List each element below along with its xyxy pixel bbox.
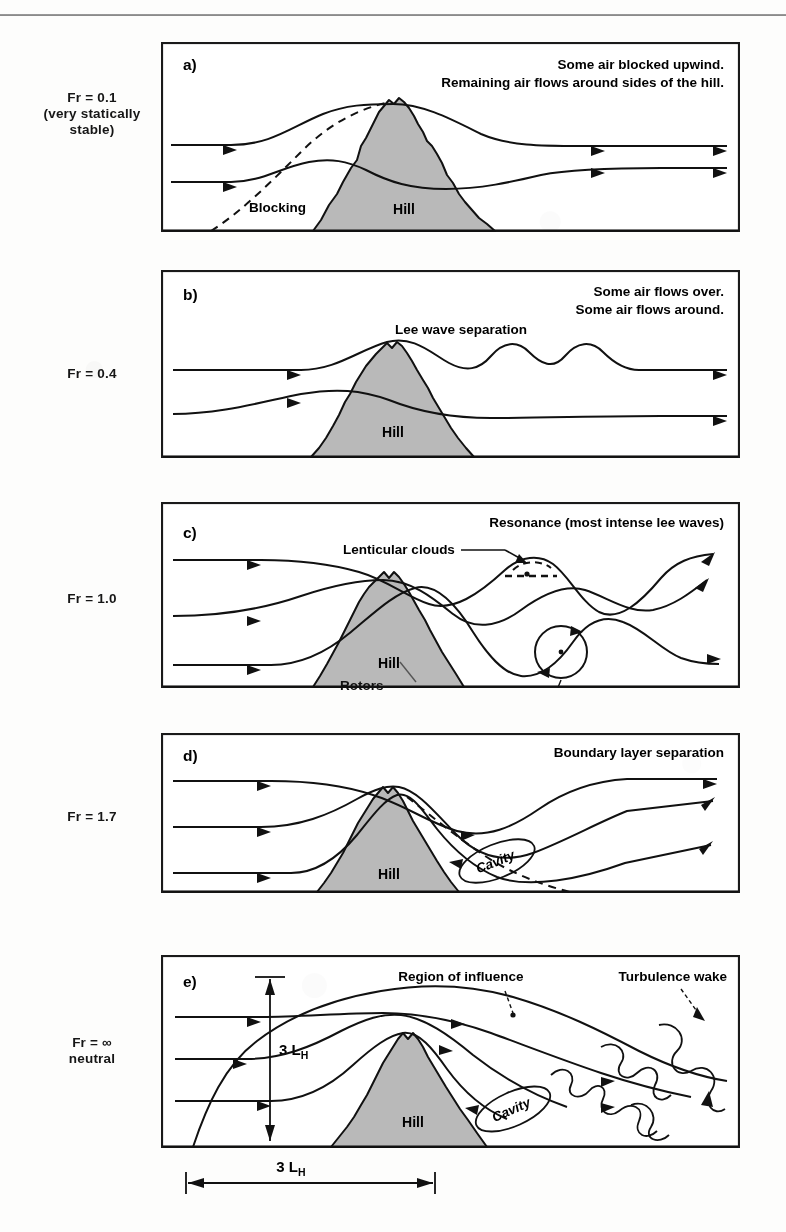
annotation-lee-wave-separation-b: Lee wave separation: [395, 322, 527, 337]
annotation-rotors-text: Rotors: [340, 678, 384, 693]
fr-label-d: Fr = 1.7: [28, 809, 156, 825]
panel-tag-c: c): [183, 524, 197, 541]
annotation-rotors-c: Rotors: [340, 678, 384, 693]
panel-b-caption-1: Some air flows over.: [593, 284, 724, 299]
cloud-marker-dot: [524, 571, 529, 576]
fr-label-b: Fr = 0.4: [28, 366, 156, 382]
panel-c-caption-1: Resonance (most intense lee waves): [489, 515, 724, 530]
rotors-leader: [388, 660, 428, 684]
hill-label-d: Hill: [378, 866, 400, 882]
scale-arrow-right-icon: [417, 1178, 433, 1188]
panel-a: a) Some air blocked upwind. Remaining ai…: [161, 42, 740, 232]
panel-e: e) Region of influence Turbulence wake H…: [161, 955, 740, 1148]
panel-b-caption-2: Some air flows around.: [575, 302, 724, 317]
leader-dot-icon: [510, 1012, 515, 1017]
horizontal-scale-bar: 3 LH: [161, 1152, 481, 1210]
annotation-lenticular-clouds-c: Lenticular clouds: [343, 542, 455, 557]
panel-e-caption-1: Region of influence: [398, 969, 524, 984]
panel-d: d) Boundary layer separation Hill Cavity: [161, 733, 740, 893]
panel-d-caption-1: Boundary layer separation: [554, 745, 724, 760]
panel-c: c) Resonance (most intense lee waves) Le…: [161, 502, 740, 688]
panel-a-caption-2: Remaining air flows around sides of the …: [441, 75, 724, 90]
scale-horizontal-label: 3 LH: [276, 1158, 305, 1178]
rotor-center-dot: [559, 650, 564, 655]
scale-arrow-left-icon: [188, 1178, 204, 1188]
fr-label-c: Fr = 1.0: [28, 591, 156, 607]
panel-a-caption-1: Some air blocked upwind.: [557, 57, 724, 72]
panel-tag-a: a): [183, 56, 197, 73]
panel-tag-b: b): [183, 286, 198, 303]
hill-label-a: Hill: [393, 201, 415, 217]
panel-tag-d: d): [183, 747, 198, 764]
fr-label-a: Fr = 0.1 (very statically stable): [28, 90, 156, 138]
hill-label-b: Hill: [382, 424, 404, 440]
hill-label-e: Hill: [402, 1114, 424, 1130]
fr-label-e: Fr = ∞ neutral: [28, 1035, 156, 1067]
panel-b: b) Some air flows over. Some air flows a…: [161, 270, 740, 458]
panel-e-caption-2: Turbulence wake: [618, 969, 727, 984]
annotation-blocking-a: Blocking: [249, 200, 306, 215]
figure-root: Fr = 0.1 (very statically stable) a) Som…: [0, 0, 786, 1232]
header-rule: [0, 14, 786, 16]
panel-tag-e: e): [183, 973, 197, 990]
